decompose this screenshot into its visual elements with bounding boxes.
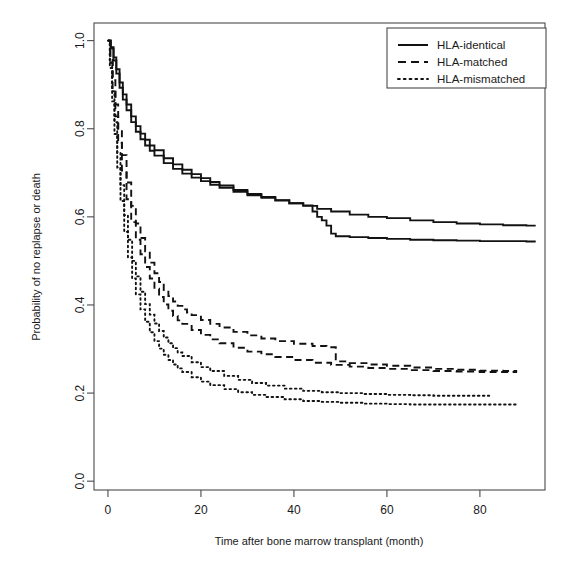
survival-plot-figure: 0.00.20.40.60.81.0 020406080 Time after … bbox=[0, 0, 568, 581]
y-tick-label: 0.2 bbox=[73, 384, 87, 401]
plot-frame bbox=[94, 23, 545, 490]
y-tick-label: 0.4 bbox=[73, 296, 87, 313]
legend-label-hla-identical: HLA-identical bbox=[437, 39, 505, 51]
x-tick-label: 20 bbox=[194, 503, 208, 517]
legend-label-hla-mismatched: HLA-mismatched bbox=[437, 73, 525, 85]
x-tick-label: 80 bbox=[473, 503, 487, 517]
y-tick-label: 0.8 bbox=[73, 120, 87, 137]
legend-label-hla-matched: HLA-matched bbox=[437, 56, 507, 68]
survival-curve bbox=[108, 41, 489, 396]
x-tick-label: 40 bbox=[287, 503, 301, 517]
legend: HLA-identical HLA-matched HLA-mismatched bbox=[387, 28, 546, 88]
y-tick-label: 1.0 bbox=[73, 32, 87, 49]
x-axis-title: Time after bone marrow transplant (month… bbox=[215, 535, 424, 547]
survival-curves-group bbox=[108, 41, 536, 405]
plot-canvas: 0.00.20.40.60.81.0 020406080 Time after … bbox=[0, 0, 568, 581]
x-tick-label: 60 bbox=[380, 503, 394, 517]
x-axis-ticks: 020406080 bbox=[105, 490, 487, 517]
y-tick-label: 0.0 bbox=[73, 473, 87, 490]
y-axis-title: Probability of no replapse or death bbox=[30, 173, 42, 341]
y-axis-ticks: 0.00.20.40.60.81.0 bbox=[73, 32, 94, 490]
y-tick-label: 0.6 bbox=[73, 208, 87, 225]
x-tick-label: 0 bbox=[105, 503, 112, 517]
